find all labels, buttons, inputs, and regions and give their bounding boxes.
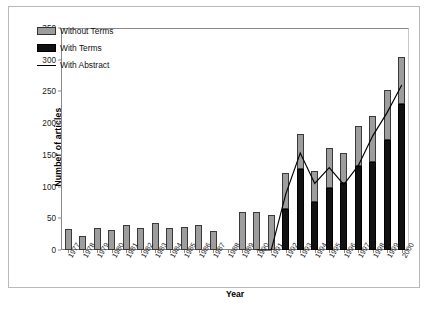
bar-column: [398, 28, 405, 250]
bar-segment-without-terms: [369, 116, 376, 162]
y-tick-label-50: 50: [47, 214, 56, 223]
bar-column: [355, 28, 362, 250]
y-tick-label-100: 100: [42, 182, 56, 191]
bar-column: [340, 28, 347, 250]
bar-column: [137, 28, 144, 250]
bar-segment-without-terms: [297, 134, 304, 170]
bar-column: [210, 28, 217, 250]
bar-segment-with-terms: [355, 166, 362, 250]
legend-item-with-terms: With Terms: [37, 41, 113, 55]
bar-segment-without-terms: [340, 153, 347, 183]
legend-item-with-abstract: With Abstract: [37, 58, 113, 72]
y-tick-label-200: 200: [42, 119, 56, 128]
bar-column: [384, 28, 391, 250]
black-line-swatch-icon: [37, 61, 56, 69]
bar-column: [152, 28, 159, 250]
y-tick-label-150: 150: [42, 150, 56, 159]
bar-column: [268, 28, 275, 250]
legend-label-with-abstract: With Abstract: [60, 60, 109, 70]
bar-segment-without-terms: [384, 90, 391, 141]
bar-segment-with-terms: [398, 104, 405, 250]
bar-segment-with-terms: [340, 183, 347, 250]
bar-segment-with-terms: [311, 202, 318, 250]
y-tick-label-250: 250: [42, 87, 56, 96]
bar-column: [166, 28, 173, 250]
figure-frame: Number of articles 050100150200250300350…: [8, 6, 420, 288]
bar-segment-with-terms: [326, 188, 333, 250]
bar-column: [326, 28, 333, 250]
legend-label-without-terms: Without Terms: [60, 26, 113, 36]
x-axis-title: Year: [61, 289, 409, 299]
bar-segment-with-terms: [369, 162, 376, 250]
legend-item-without-terms: Without Terms: [37, 24, 113, 38]
bar-column: [123, 28, 130, 250]
chart-legend: Without Terms With Terms With Abstract: [37, 24, 113, 75]
bar-column: [297, 28, 304, 250]
bar-segment-without-terms: [282, 173, 289, 209]
bar-column: [311, 28, 318, 250]
bar-segment-with-terms: [297, 169, 304, 250]
bar-segment-without-terms: [311, 171, 318, 203]
bar-segment-with-terms: [384, 140, 391, 250]
y-tick-label-0: 0: [51, 246, 56, 255]
bar-segment-without-terms: [326, 148, 333, 189]
bar-column: [224, 28, 231, 250]
black-square-swatch-icon: [37, 44, 56, 52]
bar-column: [239, 28, 246, 250]
bar-column: [195, 28, 202, 250]
bar-segment-without-terms: [398, 57, 405, 105]
legend-label-with-terms: With Terms: [60, 43, 102, 53]
bar-column: [181, 28, 188, 250]
bar-column: [369, 28, 376, 250]
bar-segment-without-terms: [355, 126, 362, 165]
bar-column: [253, 28, 260, 250]
gray-square-swatch-icon: [37, 27, 56, 35]
bar-column: [282, 28, 289, 250]
